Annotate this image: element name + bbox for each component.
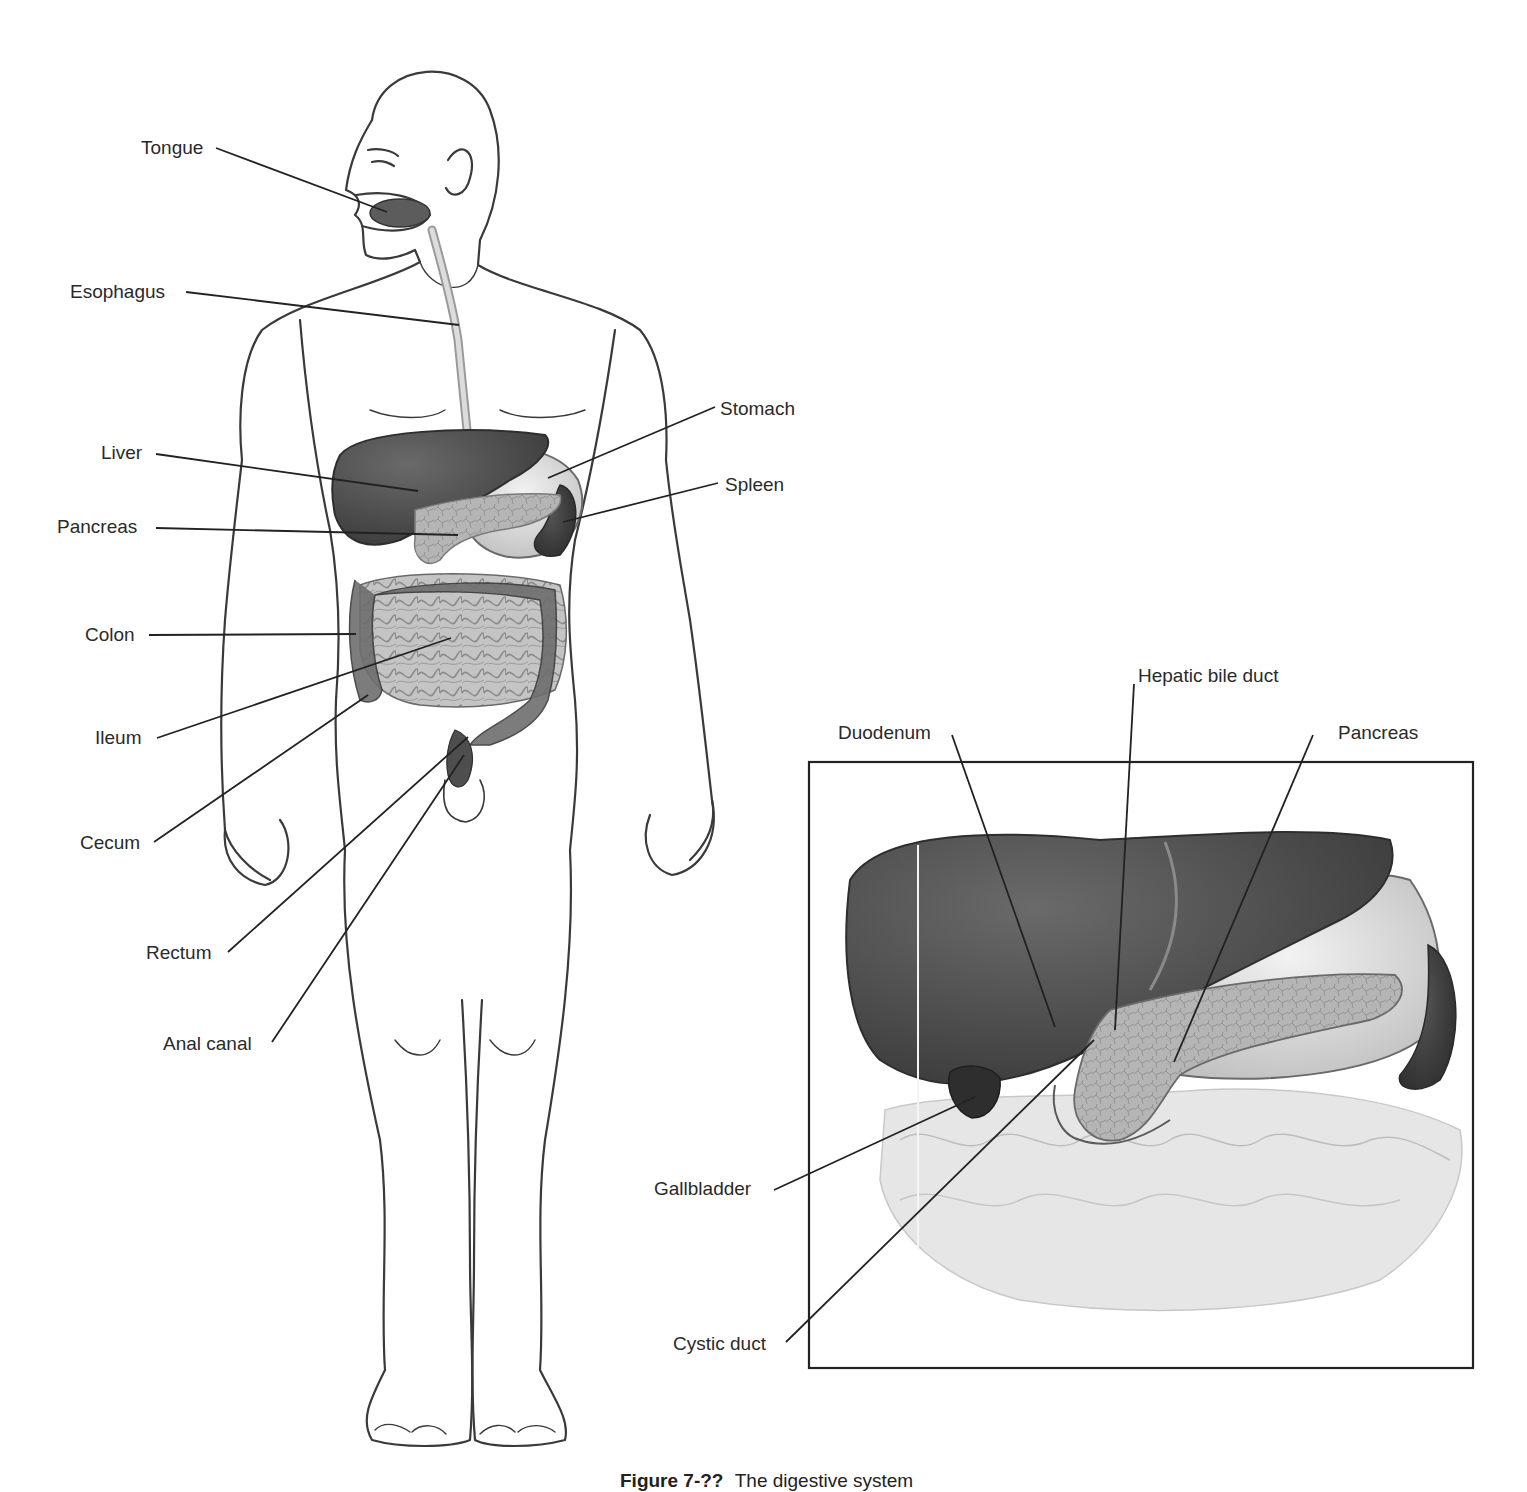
figure-caption: Figure 7-?? The digestive system (620, 1470, 913, 1492)
label-colon: Colon (85, 625, 135, 644)
label-duodenum: Duodenum (838, 723, 931, 742)
caption-number: Figure 7-?? (620, 1470, 729, 1491)
label-rectum: Rectum (146, 943, 211, 962)
label-esophagus: Esophagus (70, 282, 165, 301)
leader-line-esophagus (186, 292, 459, 325)
leader-line-colon (149, 634, 356, 635)
label-tongue: Tongue (141, 138, 203, 157)
label-cystic-duct: Cystic duct (673, 1334, 766, 1353)
label-pancreas: Pancreas (57, 517, 137, 536)
label-cecum: Cecum (80, 833, 140, 852)
caption-text: The digestive system (735, 1470, 913, 1491)
label-spleen: Spleen (725, 475, 784, 494)
label-liver: Liver (101, 443, 142, 462)
label-gallbladder: Gallbladder (654, 1179, 751, 1198)
rectum-shape (447, 730, 473, 787)
leader-line-cecum (154, 695, 368, 842)
leader-line-tongue (216, 148, 387, 212)
label-anal-canal: Anal canal (163, 1034, 252, 1053)
label-stomach: Stomach (720, 399, 795, 418)
inset-intestines (880, 1089, 1462, 1310)
leader-line-rectum (228, 737, 468, 952)
label-hepatic-bile-duct: Hepatic bile duct (1138, 666, 1278, 685)
label-ileum: Ileum (95, 728, 141, 747)
label-inset-pancreas: Pancreas (1338, 723, 1418, 742)
tongue-shape (370, 199, 430, 227)
leader-line-anal-canal (272, 755, 464, 1042)
leader-line-stomach (548, 407, 715, 478)
